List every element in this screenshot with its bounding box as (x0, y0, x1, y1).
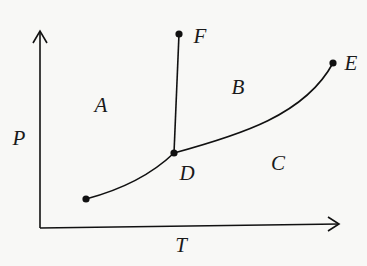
y-axis-label: P (13, 128, 26, 149)
point-label-f: F (194, 26, 207, 47)
point-label-d: D (179, 163, 194, 184)
point-label-e: E (345, 53, 358, 74)
point-E (329, 59, 336, 66)
region-label-a: A (95, 95, 108, 116)
axes (33, 31, 339, 231)
x-axis-label: T (175, 235, 187, 256)
curve-low-to-D (86, 153, 174, 199)
line-D-to-F (174, 34, 179, 153)
curve-D-to-E (174, 63, 333, 153)
phase-diagram: F E B A P D C T (0, 0, 367, 266)
point-D (170, 149, 177, 156)
region-label-b: B (232, 77, 245, 98)
x-axis (40, 224, 339, 228)
diagram-graphics (0, 0, 367, 266)
region-label-c: C (271, 153, 285, 174)
point-F (175, 30, 182, 37)
point-low-end (82, 195, 89, 202)
